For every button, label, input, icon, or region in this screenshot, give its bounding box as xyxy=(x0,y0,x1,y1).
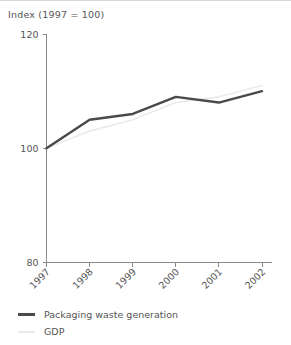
x-tick-label: 2001 xyxy=(199,266,224,291)
legend-item-gdp[interactable]: GDP xyxy=(18,323,283,340)
series-line-gdp xyxy=(47,85,263,148)
legend-label-gdp: GDP xyxy=(44,327,64,337)
legend-item-packaging-waste-generation[interactable]: Packaging waste generation xyxy=(18,306,283,323)
chart-plot-area: 80100120 199719981999200020012002 xyxy=(0,0,291,345)
x-tick-label: 1998 xyxy=(70,266,95,291)
axis-lines xyxy=(47,34,273,263)
y-tick-label: 80 xyxy=(26,257,38,268)
y-tick-label: 120 xyxy=(20,29,38,40)
chart-legend: Packaging waste generation GDP xyxy=(18,306,283,340)
legend-swatch-packaging-waste-generation xyxy=(18,313,35,316)
x-tick-label: 1997 xyxy=(27,266,52,291)
y-tick-label: 100 xyxy=(20,143,38,154)
x-tick-label: 1999 xyxy=(113,266,138,291)
chart-container: Index (1997 = 100) 80100120 199719981999… xyxy=(0,0,291,345)
x-tick-label: 2002 xyxy=(243,266,268,291)
legend-label-packaging-waste-generation: Packaging waste generation xyxy=(44,310,178,320)
series-lines xyxy=(47,85,263,148)
series-line-packaging-waste-generation xyxy=(47,91,263,148)
x-tick-label: 2000 xyxy=(156,266,181,291)
legend-swatch-gdp xyxy=(18,331,35,333)
y-axis-ticks: 80100120 xyxy=(20,29,46,269)
x-axis-ticks: 199719981999200020012002 xyxy=(27,263,267,292)
